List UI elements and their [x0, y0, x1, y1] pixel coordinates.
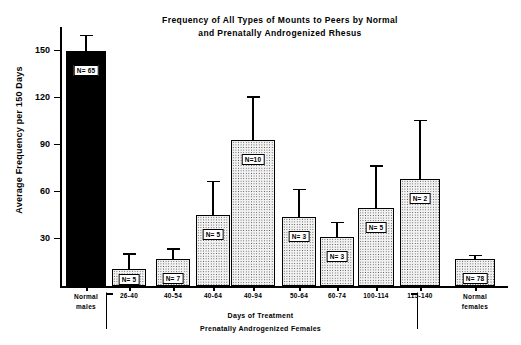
y-tick-30 — [54, 238, 61, 240]
x-tick — [253, 286, 255, 291]
bar-4 — [196, 215, 230, 286]
y-tick-label-30: 30 — [8, 233, 50, 243]
error-bar — [474, 255, 476, 260]
bar-n-label: N= 3 — [327, 251, 348, 262]
bar-n-label: N=10 — [242, 154, 265, 165]
bar-n-label: N= 5 — [366, 222, 387, 233]
error-bar-cap — [331, 222, 344, 224]
x-tick — [475, 286, 477, 291]
bar-column: N= 5 — [196, 215, 230, 286]
x-tick — [299, 286, 301, 291]
bar-n-label: N= 7 — [163, 273, 184, 284]
x-tick — [376, 286, 378, 291]
bar-column: N= 5 — [112, 269, 146, 286]
error-bar — [419, 120, 421, 180]
bar-n-label: N= 2 — [410, 193, 431, 204]
bar-1 — [66, 51, 106, 286]
error-bar-cap — [123, 253, 136, 255]
error-bar — [172, 248, 174, 259]
bar-n-label: N= 65 — [74, 65, 99, 76]
x-tick — [213, 286, 215, 291]
x-axis-line — [60, 286, 508, 288]
x-tick — [86, 286, 88, 291]
bar-n-label: N= 5 — [119, 274, 140, 285]
bar-n-label: N= 5 — [203, 229, 224, 240]
error-bar-cap — [80, 35, 93, 37]
y-tick-label-150: 150 — [8, 45, 50, 55]
chart-figure: Frequency of All Types of Mounts to Peer… — [0, 0, 521, 345]
error-bar — [298, 189, 300, 217]
y-tick-label-60: 60 — [8, 186, 50, 196]
y-axis-line — [60, 27, 62, 286]
bar-column: N= 78 — [455, 259, 495, 286]
x-tick — [420, 286, 422, 291]
bar-column: N= 3 — [320, 237, 354, 286]
x-tick — [173, 286, 175, 291]
error-bar-cap — [247, 96, 260, 98]
error-bar-cap — [293, 189, 306, 191]
bar-column: N= 65 — [66, 51, 106, 286]
error-bar — [85, 35, 87, 51]
x-axis-subtitle: Prenatally Androgenized Females — [0, 325, 521, 332]
y-tick-label-90: 90 — [8, 139, 50, 149]
treatment-group-bracket — [106, 292, 418, 329]
error-bar — [252, 96, 254, 140]
x-category-label-line-1: Normal — [440, 292, 510, 302]
bar-n-label: N= 3 — [289, 231, 310, 242]
bar-column: N= 2 — [400, 179, 440, 286]
bar-column: N= 3 — [282, 217, 316, 286]
y-tick-60 — [54, 191, 61, 193]
bar-8 — [358, 208, 394, 286]
error-bar — [128, 253, 130, 269]
bar-column: N= 5 — [358, 208, 394, 286]
error-bar-cap — [207, 181, 220, 183]
x-category-label-line-2: females — [440, 302, 510, 312]
y-tick-150 — [54, 50, 61, 52]
x-tick — [337, 286, 339, 291]
y-tick-label-120: 120 — [8, 92, 50, 102]
bar-column: N= 7 — [156, 259, 190, 286]
error-bar — [212, 181, 214, 216]
x-axis-title: Days of Treatment — [0, 312, 521, 319]
error-bar — [375, 165, 377, 207]
x-category-label: Normalfemales — [440, 292, 510, 312]
chart-title-line-2: and Prenatally Androgenized Rhesus — [120, 27, 440, 40]
error-bar — [336, 222, 338, 238]
y-tick-120 — [54, 97, 61, 99]
bar-6 — [282, 217, 316, 286]
bar-column: N=10 — [231, 140, 275, 286]
error-bar-cap — [167, 248, 180, 250]
y-tick-90 — [54, 144, 61, 146]
error-bar-cap — [414, 120, 427, 122]
chart-title: Frequency of All Types of Mounts to Peer… — [120, 14, 440, 40]
error-bar-cap — [469, 255, 482, 257]
bar-n-label: N= 78 — [463, 273, 488, 284]
chart-title-line-1: Frequency of All Types of Mounts to Peer… — [120, 14, 440, 27]
x-tick — [129, 286, 131, 291]
error-bar-cap — [370, 165, 383, 167]
